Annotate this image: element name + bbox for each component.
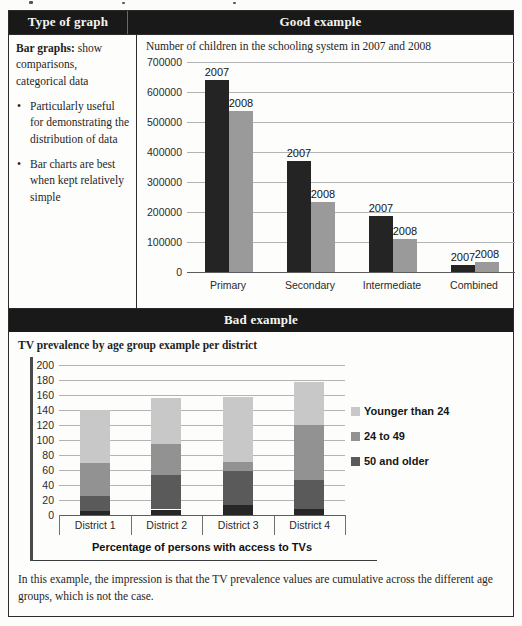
bar-year-label: 2007 xyxy=(198,66,236,78)
x-axis-category-label: Intermediate xyxy=(351,279,433,291)
x-axis-title: Percentage of persons with access to TVs xyxy=(59,541,345,553)
y-axis-tick-label: 60 xyxy=(33,464,54,476)
y-axis-tick-label: 400000 xyxy=(145,146,182,158)
stack-segment-district-3-younger-than-24 xyxy=(223,397,253,462)
y-axis-tick-label: 180 xyxy=(33,374,54,386)
cropped-text-remnant xyxy=(29,1,33,4)
stack-segment-district-3-unlabeled-base xyxy=(223,505,253,515)
header-good-example: Good example xyxy=(128,11,513,34)
bullet-glyph: • xyxy=(16,98,30,147)
bar-secondary-2008 xyxy=(311,202,335,272)
y-axis-tick-label: 20 xyxy=(33,494,54,506)
bar-intermediate-2008 xyxy=(393,239,417,272)
y-axis-tick-label: 0 xyxy=(33,509,54,521)
page: Type of graph Good example Bar graphs: s… xyxy=(0,0,522,626)
x-axis-category-label: Primary xyxy=(187,279,269,291)
legend-swatch-24-to-49 xyxy=(351,432,360,441)
bad-example-cell: TV prevalence by age group example per d… xyxy=(9,332,513,616)
stack-segment-district-4-24-to-49 xyxy=(294,425,324,480)
stack-segment-district-2-50-and-older xyxy=(151,474,181,509)
gridline-0 xyxy=(187,272,515,273)
bar-year-label: 2008 xyxy=(222,97,260,109)
cropped-text-remnant xyxy=(122,2,125,4)
bar-year-label: 2008 xyxy=(304,188,342,200)
stack-segment-district-3-50-and-older xyxy=(223,471,253,505)
header-bad-example: Bad example xyxy=(9,309,513,332)
district-label-row: District 1District 2District 3District 4 xyxy=(59,515,346,535)
bar-secondary-2007 xyxy=(287,161,311,272)
bar-graphs-description-cell: Bar graphs: show comparisons, categorica… xyxy=(9,35,137,308)
stack-segment-district-1-24-to-49 xyxy=(80,462,110,496)
y-axis-tick-label: 200 xyxy=(33,359,54,371)
legend-item: Younger than 24 xyxy=(351,405,449,417)
y-axis-tick-label: 160 xyxy=(33,389,54,401)
good-chart-title: Number of children in the schooling syst… xyxy=(146,40,505,52)
gridline-600000 xyxy=(187,92,515,93)
bad-example-header-row: Bad example xyxy=(9,309,513,332)
bullet-text: Particularly useful for demonstrating th… xyxy=(30,98,130,147)
gridline-700000 xyxy=(187,62,515,63)
bar-graphs-lead: Bar graphs: show comparisons, categorica… xyxy=(16,40,130,89)
y-axis-tick-label: 200000 xyxy=(145,206,182,218)
x-axis-category-label: Secondary xyxy=(269,279,351,291)
bar-primary-2008 xyxy=(229,111,253,272)
district-label: District 2 xyxy=(131,515,203,535)
stack-segment-district-3-24-to-49 xyxy=(223,462,253,471)
bullet-glyph: • xyxy=(16,156,30,205)
bad-example-caption: In this example, the impression is that … xyxy=(18,571,504,606)
good-example-row: Bar graphs: show comparisons, categorica… xyxy=(9,34,513,309)
legend-label: 24 to 49 xyxy=(364,430,405,442)
y-axis-tick-label: 600000 xyxy=(145,86,182,98)
stack-segment-district-4-younger-than-24 xyxy=(294,382,324,425)
bar-year-label: 2007 xyxy=(362,202,400,214)
bar-combined-2008 xyxy=(475,262,499,272)
legend-item: 50 and older xyxy=(351,455,449,467)
bullet-item: • Bar charts are best when kept relative… xyxy=(16,156,130,205)
legend-item: 24 to 49 xyxy=(351,430,449,442)
bar-year-label: 2007 xyxy=(280,147,318,159)
gridline-180 xyxy=(59,380,345,381)
bad-example-stacked-chart: 200180160140120100806040200District 1Dis… xyxy=(30,357,479,561)
table-header-row: Type of graph Good example xyxy=(9,11,513,34)
header-type-of-graph: Type of graph xyxy=(9,11,128,34)
bullet-item: • Particularly useful for demonstrating … xyxy=(16,98,130,147)
good-example-bar-chart: 7000006000005000004000003000002000001000… xyxy=(145,54,505,300)
good-example-cell: Number of children in the schooling syst… xyxy=(137,35,513,308)
stack-segment-district-2-24-to-49 xyxy=(151,444,181,475)
y-axis-tick-label: 100000 xyxy=(145,236,182,248)
legend-swatch-younger-than-24 xyxy=(351,407,360,416)
stack-segment-district-4-50-and-older xyxy=(294,480,324,509)
district-label: District 3 xyxy=(202,515,274,535)
chart-frame-bottom-border xyxy=(33,560,377,561)
bar-year-label: 2008 xyxy=(386,225,424,237)
legend-label: Younger than 24 xyxy=(364,405,449,417)
y-axis-tick-label: 500000 xyxy=(145,116,182,128)
cropped-text-remnant xyxy=(233,2,236,4)
stack-segment-district-2-younger-than-24 xyxy=(151,398,181,444)
y-axis-tick-label: 700000 xyxy=(145,56,182,68)
y-axis-tick-label: 0 xyxy=(145,266,182,278)
stack-segment-district-1-50-and-older xyxy=(80,496,110,511)
bad-chart-title: TV prevalence by age group example per d… xyxy=(18,339,505,351)
bar-year-label: 2008 xyxy=(468,248,506,260)
legend-label: 50 and older xyxy=(364,455,429,467)
stack-segment-district-1-younger-than-24 xyxy=(80,410,110,463)
y-axis-tick-label: 100 xyxy=(33,434,54,446)
y-axis-tick-label: 120 xyxy=(33,419,54,431)
bullet-text: Bar charts are best when kept relatively… xyxy=(30,156,130,205)
legend-swatch-50-and-older xyxy=(351,457,360,466)
district-label: District 1 xyxy=(59,515,131,535)
bar-graphs-lead-bold: Bar graphs: xyxy=(16,42,75,54)
y-axis-tick-label: 80 xyxy=(33,449,54,461)
chart-legend: Younger than 2424 to 4950 and older xyxy=(351,405,449,480)
bar-combined-2007 xyxy=(451,265,475,272)
y-axis-tick-label: 300000 xyxy=(145,176,182,188)
y-axis-tick-label: 40 xyxy=(33,479,54,491)
gridline-200 xyxy=(59,365,345,366)
graph-types-table: Type of graph Good example Bar graphs: s… xyxy=(8,10,514,617)
y-axis-tick-label: 140 xyxy=(33,404,54,416)
x-axis-category-label: Combined xyxy=(433,279,515,291)
district-label: District 4 xyxy=(274,515,346,535)
stack-segment-district-4-unlabeled-base xyxy=(294,508,324,515)
